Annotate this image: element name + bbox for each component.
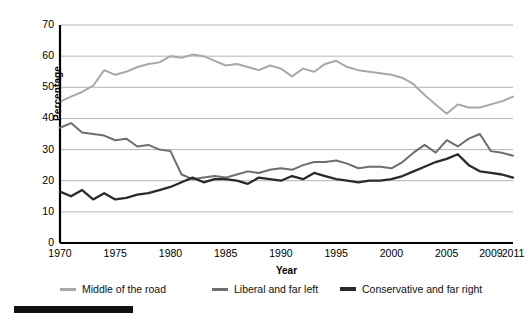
legend-label: Middle of the road [82,283,166,295]
y-axis-tick-label: 60 [26,50,54,60]
x-axis-tick-label: 2005 [427,247,467,259]
series-line [60,55,513,114]
legend-swatch-icon [212,288,228,291]
x-axis-tick-label: 1990 [261,247,301,259]
legend-swatch-icon [340,287,356,291]
legend-label: Liberal and far left [234,283,318,295]
legend-item: Liberal and far left [212,283,318,295]
y-axis-tick-label: 20 [26,175,54,185]
x-axis-title: Year [60,265,513,276]
legend-item: Middle of the road [60,283,166,295]
series-line [60,123,513,179]
y-axis-tick-label: 40 [26,112,54,122]
x-axis-tick-label: 1970 [40,247,80,259]
x-axis-tick-label: 1975 [95,247,135,259]
legend-label: Conservative and far right [362,283,482,295]
line-chart-figure: Percentage Year 010203040506070 19701975… [0,0,531,320]
y-axis-tick-label: 30 [26,144,54,154]
y-axis-tick-label: 50 [26,81,54,91]
x-axis-tick-label: 1995 [316,247,356,259]
x-axis-tick-label: 1985 [206,247,246,259]
x-axis-tick-label: 2000 [371,247,411,259]
y-axis-tick-label: 70 [26,19,54,29]
x-axis-tick-label: 2011 [493,247,531,259]
y-axis-tick-label: 0 [26,237,54,247]
x-axis-tick-label: 1980 [150,247,190,259]
series-line [60,154,513,199]
y-axis-tick-label: 10 [26,206,54,216]
legend-item: Conservative and far right [340,283,482,295]
chart-legend: Middle of the roadLiberal and far leftCo… [0,283,531,303]
footer-rule [14,306,133,313]
legend-swatch-icon [60,288,76,291]
